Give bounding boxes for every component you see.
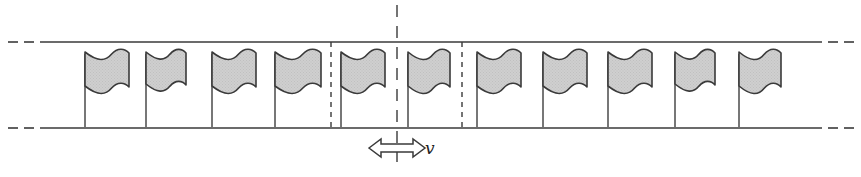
- flag-6: [408, 49, 450, 127]
- flag-2-banner: [146, 49, 186, 91]
- flag-array-figure: v: [0, 0, 861, 177]
- flag-4: [275, 49, 321, 127]
- flag-11-banner: [739, 49, 781, 93]
- flag-6-banner: [408, 49, 450, 93]
- flag-4-banner: [275, 49, 321, 93]
- velocity-label: v: [425, 140, 435, 157]
- flag-1-banner: [85, 49, 129, 93]
- flag-3-banner: [212, 49, 256, 93]
- flag-9-banner: [608, 49, 652, 93]
- flag-9: [608, 49, 652, 127]
- flag-8-banner: [543, 49, 587, 93]
- flag-10-banner: [675, 49, 715, 91]
- flag-2: [146, 49, 186, 127]
- flag-11: [739, 49, 781, 127]
- flag-1: [85, 49, 129, 127]
- flag-5-banner: [341, 49, 385, 93]
- flag-7: [477, 49, 521, 127]
- flag-7-banner: [477, 49, 521, 93]
- flag-row: [85, 49, 781, 127]
- flag-10: [675, 49, 715, 127]
- flag-3: [212, 49, 256, 127]
- flag-8: [543, 49, 587, 127]
- flag-5: [341, 49, 385, 127]
